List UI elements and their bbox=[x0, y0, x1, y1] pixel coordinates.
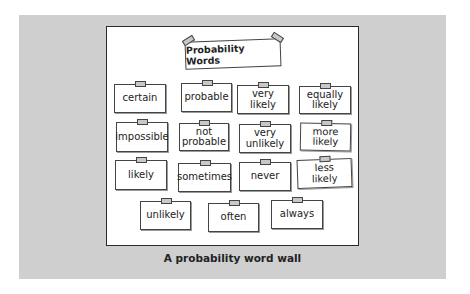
word-card-likely: likely bbox=[115, 160, 167, 190]
word-card-very-unlikely: very unlikely bbox=[239, 124, 291, 153]
tape-icon bbox=[229, 200, 240, 206]
tape-icon bbox=[258, 82, 269, 88]
word-card-often: often bbox=[208, 203, 259, 232]
word-card-never: never bbox=[239, 162, 291, 191]
tape-icon bbox=[161, 198, 172, 204]
tape-icon bbox=[200, 160, 211, 166]
word-card-label: impossible bbox=[115, 132, 168, 143]
word-card-more-likely: more likely bbox=[300, 123, 351, 152]
word-card-label: very unlikely bbox=[246, 128, 285, 149]
word-card-label: never bbox=[251, 171, 280, 182]
tape-icon bbox=[320, 83, 331, 89]
word-card-label: less likely bbox=[311, 163, 338, 185]
word-card-label: sometimes bbox=[177, 172, 232, 183]
tape-icon bbox=[199, 120, 210, 126]
tape-icon bbox=[137, 119, 148, 125]
word-card-label: often bbox=[221, 212, 247, 223]
tape-icon bbox=[292, 197, 303, 203]
tape-icon bbox=[202, 80, 213, 86]
word-card-label: likely bbox=[128, 170, 154, 181]
word-card-very-likely: very likely bbox=[237, 85, 289, 114]
word-card-label: always bbox=[280, 209, 314, 220]
word-card-label: probable bbox=[184, 92, 228, 103]
word-card-equally-likely: equally likely bbox=[299, 86, 351, 114]
word-card-sometimes: sometimes bbox=[178, 163, 231, 192]
tape-icon bbox=[321, 120, 332, 126]
tape-icon bbox=[135, 81, 146, 87]
word-card-label: equally likely bbox=[307, 90, 343, 111]
word-card-label: more likely bbox=[312, 126, 338, 147]
tape-icon bbox=[260, 159, 271, 165]
word-card-less-likely: less likely bbox=[297, 158, 353, 189]
wall-title-card: Probability Words bbox=[185, 38, 282, 69]
word-card-always: always bbox=[271, 200, 323, 229]
word-card-label: very likely bbox=[250, 89, 276, 110]
wall-title: Probability Words bbox=[186, 41, 281, 66]
word-card-label: certain bbox=[123, 93, 158, 104]
word-card-label: unlikely bbox=[146, 210, 185, 221]
figure-caption: A probability word wall bbox=[19, 252, 446, 264]
word-card-probable: probable bbox=[181, 83, 232, 112]
word-card-unlikely: unlikely bbox=[140, 201, 191, 230]
tape-icon bbox=[319, 156, 330, 162]
tape-icon bbox=[260, 121, 271, 127]
word-card-label: not probable bbox=[182, 127, 226, 148]
tape-icon bbox=[136, 157, 147, 163]
word-card-not-probable: not probable bbox=[179, 123, 229, 151]
word-card-impossible: impossible bbox=[116, 122, 168, 152]
word-card-certain: certain bbox=[114, 84, 166, 113]
